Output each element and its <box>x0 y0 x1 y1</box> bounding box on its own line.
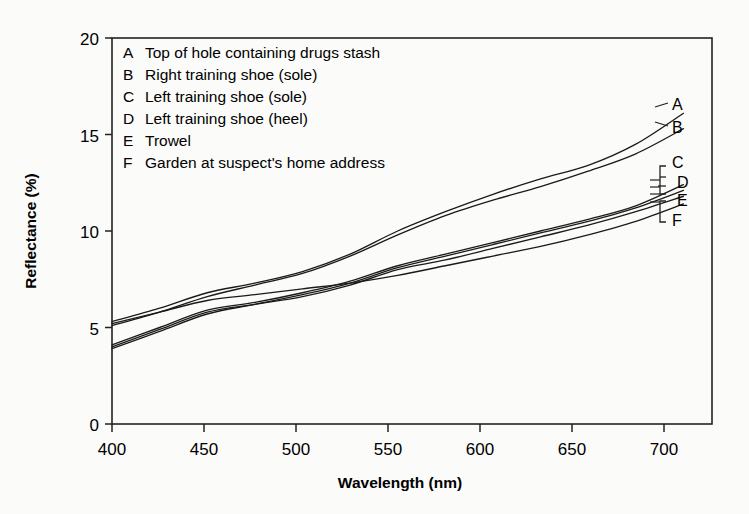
x-tick-label-400: 400 <box>98 440 126 459</box>
y-tick-label-5: 5 <box>90 320 99 339</box>
x-tick-label-600: 600 <box>466 440 494 459</box>
legend-text-b: Right training shoe (sole) <box>145 66 317 83</box>
x-tick-label-450: 450 <box>190 440 218 459</box>
series-curves-group <box>112 113 683 348</box>
y-tick-label-0: 0 <box>90 416 99 435</box>
reflectance-spectra-chart: 20 15 10 5 0 Reflectance (%) 400 450 500… <box>0 0 749 514</box>
legend-text-d: Left training shoe (heel) <box>145 110 308 127</box>
end-label-f: F <box>672 212 682 229</box>
legend-key-f: F <box>123 154 132 171</box>
end-label-leaders <box>655 103 668 126</box>
legend-key-b: B <box>123 66 133 83</box>
x-axis-ticks <box>112 424 664 432</box>
y-tick-label-15: 15 <box>80 127 99 146</box>
legend-key-a: A <box>123 44 134 61</box>
end-label-e: E <box>677 192 688 209</box>
legend-text-a: Top of hole containing drugs stash <box>145 44 380 61</box>
y-axis-ticks <box>105 38 112 424</box>
x-axis-title: Wavelength (nm) <box>338 474 462 491</box>
y-tick-labels: 20 15 10 5 0 <box>80 30 99 435</box>
end-label-c: C <box>672 154 684 171</box>
series-curve-f <box>112 204 683 324</box>
legend-key-d: D <box>123 110 134 127</box>
legend-text-e: Trowel <box>145 132 191 149</box>
x-tick-label-500: 500 <box>282 440 310 459</box>
figure-canvas: 20 15 10 5 0 Reflectance (%) 400 450 500… <box>0 0 749 514</box>
legend-key-c: C <box>123 88 134 105</box>
y-tick-label-20: 20 <box>80 30 99 49</box>
end-label-d: D <box>677 174 689 191</box>
legend: ATop of hole containing drugs stashBRigh… <box>123 44 385 171</box>
x-tick-label-650: 650 <box>558 440 586 459</box>
x-tick-label-700: 700 <box>650 440 678 459</box>
y-tick-label-10: 10 <box>80 223 99 242</box>
x-tick-labels: 400 450 500 550 600 650 700 <box>98 440 678 459</box>
end-label-b: B <box>672 119 683 136</box>
series-curve-c <box>112 185 683 345</box>
x-tick-label-550: 550 <box>374 440 402 459</box>
legend-text-f: Garden at suspect's home address <box>145 154 385 171</box>
y-axis-title: Reflectance (%) <box>22 173 39 288</box>
end-label-a: A <box>672 96 683 113</box>
legend-text-c: Left training shoe (sole) <box>145 88 307 105</box>
legend-key-e: E <box>123 132 133 149</box>
